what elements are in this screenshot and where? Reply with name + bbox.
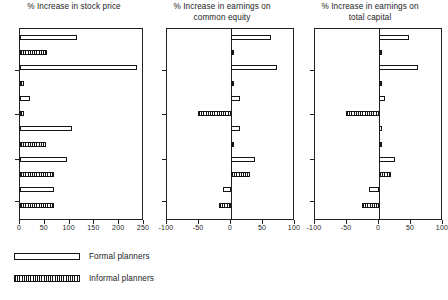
x-tick-label: 0 bbox=[228, 224, 232, 231]
x-tick-label: 50 bbox=[406, 224, 414, 231]
x-tick-label: -100 bbox=[159, 224, 174, 231]
bar-informal-2 bbox=[231, 50, 234, 55]
x-tick-label: 0 bbox=[376, 224, 380, 231]
panel-title: % Increase in stock price bbox=[0, 2, 148, 13]
bar-formal-1 bbox=[379, 35, 409, 40]
panel-title: % Increase in earnings on common equity bbox=[148, 2, 296, 23]
bar-formal-5 bbox=[231, 96, 240, 101]
legend-item-formal: Formal planners bbox=[14, 252, 150, 261]
bar-informal-6 bbox=[20, 111, 24, 116]
x-tick-label: 50 bbox=[258, 224, 266, 231]
y-tick bbox=[162, 114, 166, 115]
bar-formal-9 bbox=[20, 157, 67, 162]
x-tick-label: 0 bbox=[17, 224, 21, 231]
y-tick bbox=[310, 159, 314, 160]
x-tick-label: 50 bbox=[40, 224, 48, 231]
bar-informal-2 bbox=[379, 50, 382, 55]
legend-label-formal: Formal planners bbox=[89, 252, 150, 261]
legend-swatch-informal bbox=[14, 275, 80, 282]
x-tick-label: 100 bbox=[62, 224, 74, 231]
y-tick bbox=[15, 159, 19, 160]
x-tick-label: -50 bbox=[193, 224, 204, 231]
bar-informal-12 bbox=[362, 203, 379, 208]
bar-informal-8 bbox=[20, 142, 46, 147]
panel-earnings-common-equity: % Increase in earnings on common equity … bbox=[148, 0, 296, 240]
bar-informal-8 bbox=[379, 142, 382, 147]
bar-formal-5 bbox=[379, 96, 385, 101]
legend-label-informal: Informal planners bbox=[89, 274, 154, 283]
bar-informal-4 bbox=[20, 81, 24, 86]
y-tick bbox=[310, 201, 314, 202]
plot-area bbox=[314, 28, 442, 220]
plot-area bbox=[19, 28, 143, 220]
x-tick-label: 200 bbox=[112, 224, 124, 231]
y-tick bbox=[310, 70, 314, 71]
x-tick-label: -50 bbox=[341, 224, 352, 231]
bar-formal-1 bbox=[20, 35, 77, 40]
x-tick-label: -100 bbox=[307, 224, 322, 231]
bar-formal-3 bbox=[231, 65, 277, 70]
x-tick-label: 150 bbox=[87, 224, 99, 231]
legend-item-informal: Informal planners bbox=[14, 274, 154, 283]
bar-formal-5 bbox=[20, 96, 30, 101]
bar-informal-12 bbox=[20, 203, 54, 208]
bar-formal-11 bbox=[223, 187, 231, 192]
y-tick bbox=[162, 201, 166, 202]
legend-swatch-formal bbox=[14, 253, 80, 260]
bar-formal-9 bbox=[231, 157, 255, 162]
bar-informal-10 bbox=[379, 172, 391, 177]
bar-informal-10 bbox=[20, 172, 54, 177]
bar-formal-9 bbox=[379, 157, 395, 162]
bar-informal-2 bbox=[20, 50, 47, 55]
bar-informal-8 bbox=[231, 142, 234, 147]
bar-informal-6 bbox=[198, 111, 231, 116]
bar-formal-3 bbox=[20, 65, 137, 70]
bar-formal-7 bbox=[379, 126, 382, 131]
bar-formal-11 bbox=[20, 187, 54, 192]
panel-earnings-total-capital: % Increase in earnings on total capital … bbox=[296, 0, 444, 240]
bar-informal-6 bbox=[346, 111, 379, 116]
y-tick bbox=[15, 70, 19, 71]
x-tick-label: 100 bbox=[436, 224, 448, 231]
panel-stock-price: % Increase in stock price 05010015020025… bbox=[0, 0, 148, 240]
y-tick bbox=[162, 70, 166, 71]
bar-formal-7 bbox=[20, 126, 72, 131]
bar-informal-12 bbox=[219, 203, 231, 208]
bar-informal-4 bbox=[379, 81, 382, 86]
bar-formal-1 bbox=[231, 35, 271, 40]
bar-informal-4 bbox=[231, 81, 234, 86]
y-tick bbox=[310, 114, 314, 115]
bar-formal-7 bbox=[231, 126, 240, 131]
y-tick bbox=[15, 114, 19, 115]
bar-informal-10 bbox=[231, 172, 250, 177]
y-tick bbox=[162, 159, 166, 160]
bar-formal-11 bbox=[369, 187, 379, 192]
bar-formal-3 bbox=[379, 65, 418, 70]
panel-title: % Increase in earnings on total capital bbox=[296, 2, 444, 23]
plot-area bbox=[166, 28, 294, 220]
legend: Formal plannersInformal planners bbox=[14, 252, 234, 298]
y-tick bbox=[15, 201, 19, 202]
